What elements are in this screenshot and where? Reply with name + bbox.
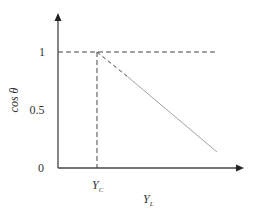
xtick-yc: YC [92, 178, 104, 194]
series-solid-segment [128, 77, 217, 152]
x-axis-arrow-icon [236, 165, 244, 172]
xtick-yc-sub: C [99, 186, 104, 194]
x-axis-label-sub: L [149, 200, 154, 208]
y-axis-label: cos θ [7, 87, 21, 112]
x-axis-label: YL [143, 192, 154, 208]
y-axis-arrow-icon [55, 13, 62, 21]
chart: 1 0.5 0 cos θ YC YL [0, 0, 254, 218]
series-dashed-segment [97, 52, 128, 77]
ytick-1: 1 [39, 45, 45, 59]
ytick-0.5: 0.5 [30, 103, 45, 117]
ytick-0: 0 [38, 161, 44, 175]
